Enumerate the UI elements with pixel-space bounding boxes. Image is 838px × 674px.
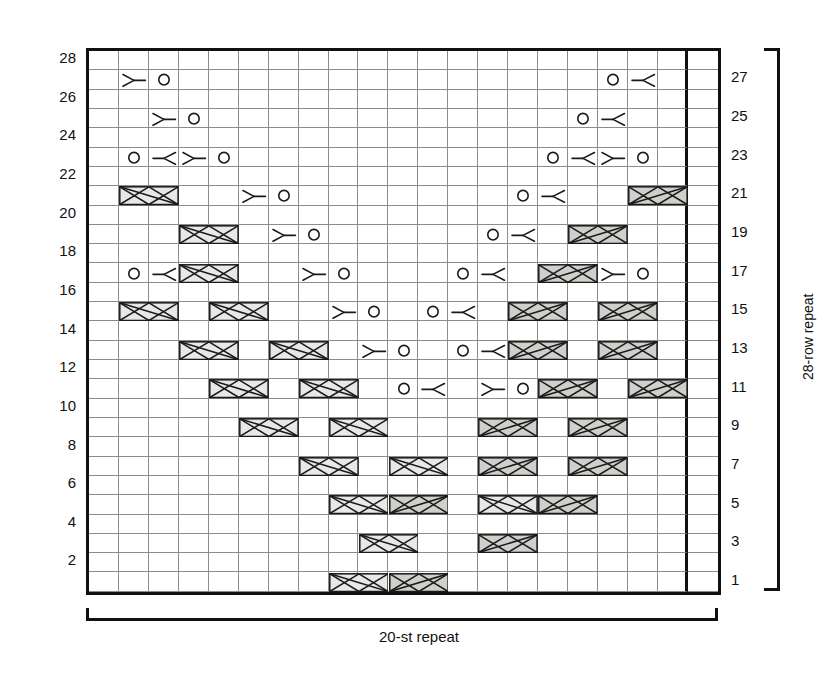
chart-cell xyxy=(269,515,299,534)
chart-cell xyxy=(329,109,359,128)
chart-cell xyxy=(179,399,209,418)
row-label-left: 24 xyxy=(42,127,76,142)
chart-cell xyxy=(149,206,179,225)
chart-cell xyxy=(508,399,538,418)
chart-cell xyxy=(628,495,658,514)
chart-cell xyxy=(688,572,718,591)
chart-cell xyxy=(658,534,688,553)
chart-cell xyxy=(89,302,119,321)
chart-cell xyxy=(418,457,448,476)
chart-row xyxy=(89,225,718,244)
chart-cell xyxy=(688,457,718,476)
chart-cell xyxy=(329,321,359,340)
chart-cell xyxy=(568,437,598,456)
chart-cell xyxy=(119,51,149,70)
chart-cell xyxy=(658,341,688,360)
chart-cell xyxy=(149,321,179,340)
chart-cell xyxy=(388,457,418,476)
chart-cell xyxy=(478,206,508,225)
chart-cell xyxy=(388,167,418,186)
chart-cell xyxy=(508,51,538,70)
chart-cell xyxy=(179,457,209,476)
chart-cell xyxy=(508,379,538,398)
chart-cell xyxy=(239,90,269,109)
chart-cell xyxy=(329,283,359,302)
chart-cell xyxy=(508,457,538,476)
chart-cell xyxy=(658,70,688,89)
row-label-left: 20 xyxy=(42,205,76,220)
chart-cell xyxy=(269,128,299,147)
chart-cell xyxy=(119,302,149,321)
chart-cell xyxy=(239,476,269,495)
chart-cell xyxy=(538,399,568,418)
chart-cell xyxy=(179,437,209,456)
chart-cell xyxy=(149,225,179,244)
chart-row xyxy=(89,379,718,398)
chart-cell xyxy=(658,244,688,263)
chart-cell xyxy=(688,148,718,167)
chart-cell xyxy=(299,206,329,225)
chart-cell xyxy=(448,70,478,89)
chart-cell xyxy=(239,457,269,476)
chart-cell xyxy=(448,186,478,205)
chart-row xyxy=(89,437,718,456)
row-label-right: 5 xyxy=(731,495,765,510)
chart-cell xyxy=(388,128,418,147)
chart-cell xyxy=(239,515,269,534)
chart-cell xyxy=(658,283,688,302)
chart-cell xyxy=(149,244,179,263)
chart-cell xyxy=(358,148,388,167)
chart-cell xyxy=(388,109,418,128)
chart-cell xyxy=(388,399,418,418)
chart-cell xyxy=(299,553,329,572)
chart-cell xyxy=(119,70,149,89)
chart-cell xyxy=(358,186,388,205)
chart-cell xyxy=(119,360,149,379)
chart-cell xyxy=(329,51,359,70)
chart-cell xyxy=(388,476,418,495)
chart-cell xyxy=(418,167,448,186)
chart-cell xyxy=(688,360,718,379)
chart-row xyxy=(89,515,718,534)
chart-cell xyxy=(538,167,568,186)
chart-cell xyxy=(448,495,478,514)
chart-cell xyxy=(538,495,568,514)
chart-cell xyxy=(478,302,508,321)
chart-cell xyxy=(329,457,359,476)
chart-cell xyxy=(179,51,209,70)
chart-cell xyxy=(688,70,718,89)
chart-cell xyxy=(628,206,658,225)
chart-cell xyxy=(358,341,388,360)
chart-cell xyxy=(688,283,718,302)
chart-cell xyxy=(358,225,388,244)
chart-cell xyxy=(508,321,538,340)
chart-cell xyxy=(89,437,119,456)
chart-cell xyxy=(658,148,688,167)
chart-cell xyxy=(598,515,628,534)
chart-row xyxy=(89,206,718,225)
chart-cell xyxy=(149,90,179,109)
chart-cell xyxy=(299,283,329,302)
chart-cell xyxy=(358,437,388,456)
chart-cell xyxy=(209,225,239,244)
chart-cell xyxy=(658,302,688,321)
chart-row xyxy=(89,457,718,476)
chart-cell xyxy=(568,534,598,553)
chart-cell xyxy=(598,263,628,282)
row-label-left: 8 xyxy=(42,437,76,452)
chart-cell xyxy=(478,321,508,340)
chart-cell xyxy=(658,128,688,147)
chart-cell xyxy=(628,244,658,263)
chart-cell xyxy=(568,148,598,167)
chart-cell xyxy=(149,437,179,456)
row-label-left: 14 xyxy=(42,321,76,336)
chart-cell xyxy=(179,263,209,282)
chart-cell xyxy=(329,360,359,379)
chart-cell xyxy=(448,321,478,340)
chart-cell xyxy=(358,572,388,591)
chart-cell xyxy=(598,437,628,456)
chart-cell xyxy=(299,225,329,244)
row-label-right: 27 xyxy=(731,69,765,84)
chart-cell xyxy=(179,572,209,591)
chart-cell xyxy=(269,476,299,495)
